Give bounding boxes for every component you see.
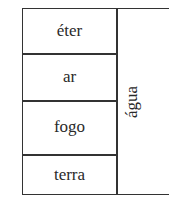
cell-terra: terra [22, 154, 117, 195]
cell-agua: água [122, 85, 142, 117]
cell-fogo: fogo [22, 100, 117, 154]
row-divider [22, 53, 117, 55]
cell-ar: ar [22, 53, 117, 100]
cell-eter: éter [22, 8, 117, 53]
row-divider [22, 100, 117, 102]
row-divider [22, 154, 117, 156]
left-column: éter ar fogo terra [22, 8, 117, 195]
right-column: água [117, 8, 169, 195]
